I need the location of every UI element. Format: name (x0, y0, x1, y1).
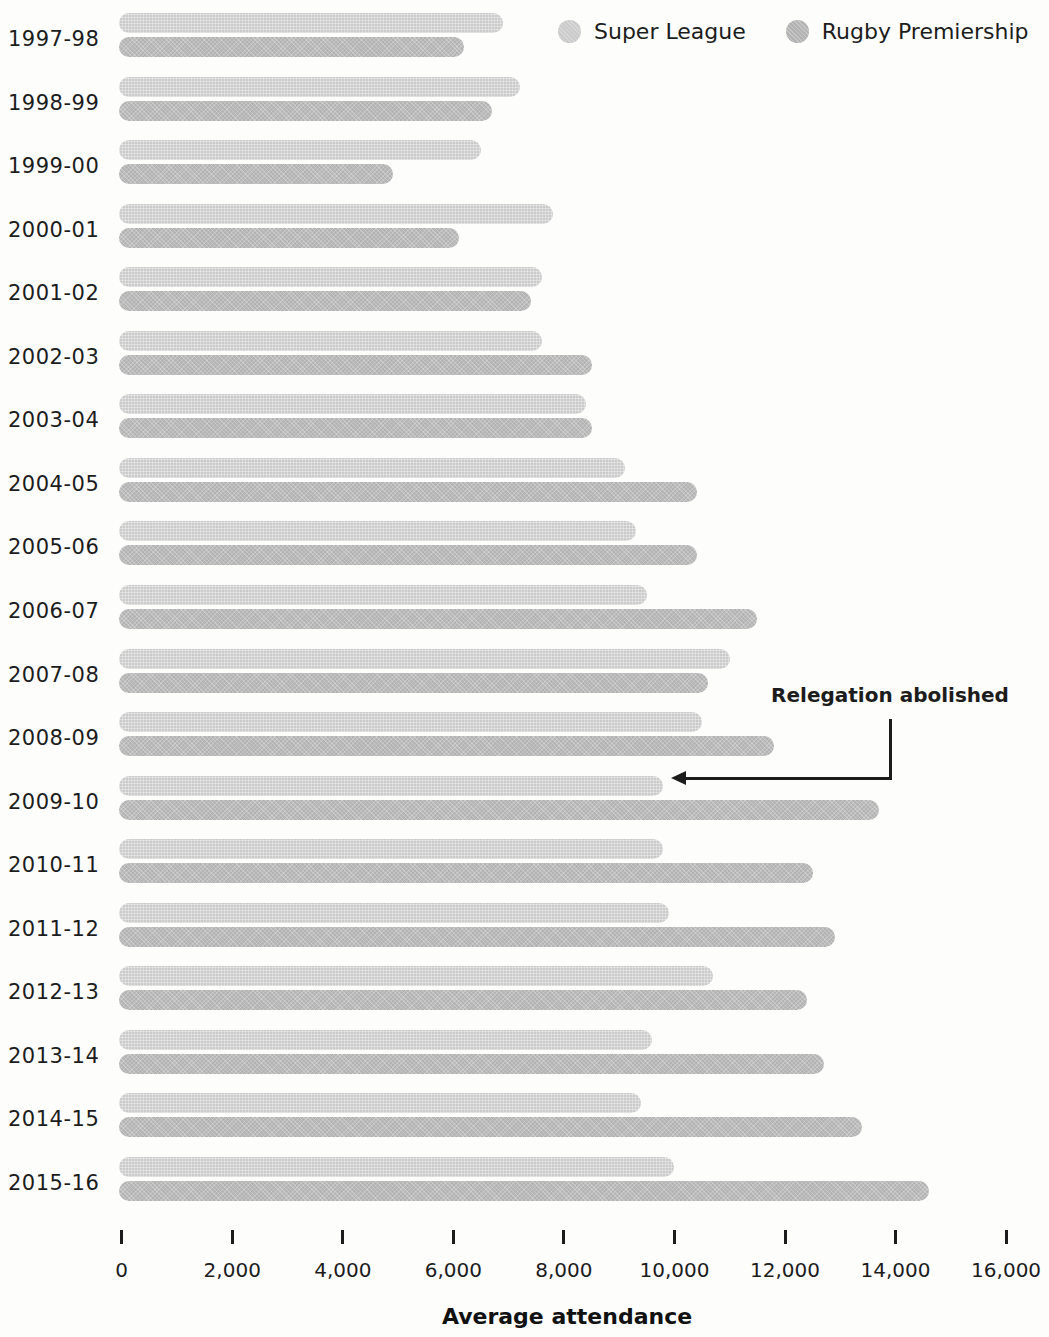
category-label-2000-01: 2000-01 (8, 216, 108, 244)
annotation-relegation-abolished: Relegation abolished (770, 683, 1010, 707)
x-tick-14,000 (894, 1230, 897, 1244)
category-label-1999-00: 1999-00 (8, 152, 108, 180)
annotation-arrow-horizontal-line (684, 777, 892, 780)
x-tick-label-4,000: 4,000 (293, 1258, 393, 1282)
bar-super-league-2001-02 (119, 267, 542, 287)
bar-super-league-2014-15 (119, 1093, 641, 1113)
category-label-1998-99: 1998-99 (8, 89, 108, 117)
legend-item-super-league: Super League (558, 19, 746, 44)
bar-super-league-1998-99 (119, 77, 520, 97)
category-label-2012-13: 2012-13 (8, 978, 108, 1006)
category-label-2003-04: 2003-04 (8, 406, 108, 434)
bar-super-league-2010-11 (119, 839, 663, 859)
bar-super-league-2004-05 (119, 458, 625, 478)
bar-rugby-premiership-1999-00 (119, 164, 393, 184)
bar-super-league-2006-07 (119, 585, 647, 605)
attendance-bar-chart: Super League Rugby Premiership 1997-9819… (0, 0, 1049, 1337)
bar-super-league-2007-08 (119, 649, 730, 669)
legend: Super League Rugby Premiership (558, 17, 1029, 45)
x-tick-label-2,000: 2,000 (182, 1258, 282, 1282)
x-tick-16,000 (1005, 1230, 1008, 1244)
category-label-2004-05: 2004-05 (8, 470, 108, 498)
category-label-2015-16: 2015-16 (8, 1169, 108, 1197)
bar-rugby-premiership-2002-03 (119, 355, 592, 375)
rugby-premiership-swatch-icon (786, 20, 809, 43)
bar-rugby-premiership-2012-13 (119, 990, 807, 1010)
bar-rugby-premiership-2009-10 (119, 800, 879, 820)
x-tick-label-6,000: 6,000 (403, 1258, 503, 1282)
category-label-2014-15: 2014-15 (8, 1105, 108, 1133)
legend-label-super-league: Super League (594, 19, 746, 44)
x-tick-0 (120, 1230, 123, 1244)
x-tick-label-8,000: 8,000 (514, 1258, 614, 1282)
bar-rugby-premiership-2003-04 (119, 418, 592, 438)
category-label-2013-14: 2013-14 (8, 1042, 108, 1070)
bar-super-league-2002-03 (119, 331, 542, 351)
bar-super-league-2008-09 (119, 712, 702, 732)
bar-super-league-1997-98 (119, 13, 503, 33)
bar-rugby-premiership-2006-07 (119, 609, 757, 629)
bar-super-league-2013-14 (119, 1030, 652, 1050)
x-axis-title: Average attendance (417, 1304, 717, 1329)
bar-rugby-premiership-2013-14 (119, 1054, 824, 1074)
x-tick-6,000 (452, 1230, 455, 1244)
bar-rugby-premiership-2005-06 (119, 545, 697, 565)
category-label-2011-12: 2011-12 (8, 915, 108, 943)
x-tick-label-16,000: 16,000 (956, 1258, 1049, 1282)
bar-rugby-premiership-2000-01 (119, 228, 459, 248)
bar-rugby-premiership-2004-05 (119, 482, 697, 502)
category-label-2002-03: 2002-03 (8, 343, 108, 371)
bar-rugby-premiership-2011-12 (119, 927, 835, 947)
bar-super-league-2005-06 (119, 521, 636, 541)
legend-label-rugby-premiership: Rugby Premiership (822, 19, 1029, 44)
bar-super-league-2012-13 (119, 966, 713, 986)
bar-rugby-premiership-1997-98 (119, 37, 464, 57)
x-tick-12,000 (784, 1230, 787, 1244)
super-league-swatch-icon (558, 20, 581, 43)
bar-rugby-premiership-2015-16 (119, 1181, 929, 1201)
category-label-2006-07: 2006-07 (8, 597, 108, 625)
bar-rugby-premiership-2014-15 (119, 1117, 862, 1137)
annotation-arrowhead-icon (671, 771, 686, 785)
bar-super-league-2003-04 (119, 394, 586, 414)
x-tick-4,000 (341, 1230, 344, 1244)
bar-super-league-1999-00 (119, 140, 481, 160)
legend-item-rugby-premiership: Rugby Premiership (786, 19, 1029, 44)
bar-super-league-2011-12 (119, 903, 669, 923)
x-tick-8,000 (562, 1230, 565, 1244)
category-label-1997-98: 1997-98 (8, 25, 108, 53)
category-label-2005-06: 2005-06 (8, 533, 108, 561)
bar-super-league-2000-01 (119, 204, 553, 224)
bar-rugby-premiership-2001-02 (119, 291, 531, 311)
annotation-arrow-vertical-line (889, 719, 892, 780)
category-label-2009-10: 2009-10 (8, 788, 108, 816)
bar-rugby-premiership-1998-99 (119, 101, 492, 121)
bar-rugby-premiership-2008-09 (119, 736, 774, 756)
x-tick-10,000 (673, 1230, 676, 1244)
x-tick-label-10,000: 10,000 (624, 1258, 724, 1282)
x-tick-label-12,000: 12,000 (735, 1258, 835, 1282)
x-tick-label-0: 0 (72, 1258, 172, 1282)
bar-super-league-2009-10 (119, 776, 663, 796)
bar-rugby-premiership-2010-11 (119, 863, 813, 883)
bar-super-league-2015-16 (119, 1157, 674, 1177)
x-tick-2,000 (231, 1230, 234, 1244)
bar-rugby-premiership-2007-08 (119, 673, 708, 693)
category-label-2007-08: 2007-08 (8, 661, 108, 689)
category-label-2010-11: 2010-11 (8, 851, 108, 879)
x-tick-label-14,000: 14,000 (846, 1258, 946, 1282)
category-label-2008-09: 2008-09 (8, 724, 108, 752)
category-label-2001-02: 2001-02 (8, 279, 108, 307)
